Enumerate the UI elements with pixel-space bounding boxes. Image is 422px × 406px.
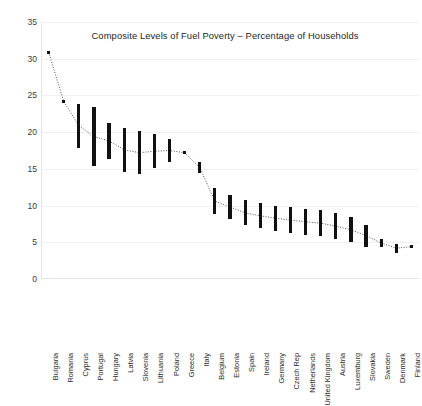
- y-tick-label: 20: [5, 128, 37, 136]
- x-tick-label: Czech Rep: [293, 353, 300, 390]
- x-tick-label: Hungary: [112, 353, 119, 381]
- x-tick-label: Denmark: [399, 353, 406, 383]
- x-tick-label: Lithuania: [157, 353, 164, 383]
- midpoint-marker: [304, 220, 307, 223]
- x-tick-label: Portugal: [97, 353, 104, 381]
- midpoint-marker: [153, 150, 156, 153]
- midpoint-marker: [259, 215, 262, 218]
- x-tick-label: Cyprus: [82, 353, 89, 376]
- midpoint-marker: [380, 242, 383, 245]
- y-tick-label: 5: [5, 238, 37, 246]
- x-tick-label: Bulgaria: [52, 353, 59, 380]
- midpoint-marker: [183, 151, 186, 154]
- x-tick-label: Netherlands: [309, 353, 316, 393]
- x-tick-label: Belgium: [218, 353, 225, 380]
- x-tick-label: Austria: [339, 353, 346, 376]
- midpoint-marker: [335, 225, 338, 228]
- y-tick-label: 15: [5, 165, 37, 173]
- x-tick-label: Luxemburg: [354, 353, 361, 390]
- midpoint-marker: [350, 229, 353, 232]
- x-tick-label: Spain: [248, 353, 255, 372]
- midpoint-marker: [123, 148, 126, 151]
- plot-area: [41, 22, 419, 279]
- x-tick-label: Estonia: [233, 353, 240, 378]
- x-tick-label: Sweden: [384, 353, 391, 380]
- midpoint-marker: [410, 245, 413, 248]
- midpoint-marker: [229, 206, 232, 209]
- y-tick-label: 25: [5, 91, 37, 99]
- midpoint-dotted-line: [41, 22, 419, 279]
- midpoint-marker: [108, 140, 111, 143]
- midpoint-marker: [214, 200, 217, 203]
- x-tick-label: Slovenia: [142, 353, 149, 381]
- x-tick-label: Italy: [203, 353, 210, 367]
- y-tick-label: 0: [5, 275, 37, 283]
- x-tick-label: Finland: [414, 353, 421, 377]
- midpoint-marker: [319, 222, 322, 225]
- x-tick-label: Germany: [278, 353, 285, 383]
- x-tick-label: Latvia: [127, 353, 134, 373]
- x-tick-label: United Kingdom: [324, 353, 331, 406]
- midpoint-marker: [62, 100, 65, 103]
- y-tick-label: 35: [5, 18, 37, 26]
- y-tick-label: 10: [5, 202, 37, 210]
- midpoint-marker: [47, 51, 50, 54]
- midpoint-marker: [138, 151, 141, 154]
- midpoint-marker: [365, 234, 368, 237]
- x-axis-labels: BulgariaRomaniaCyprusPortugalHungaryLatv…: [41, 281, 419, 355]
- x-tick-label: Romania: [67, 353, 74, 383]
- midpoint-marker: [93, 135, 96, 138]
- chart-title: Composite Levels of Fuel Poverty – Perce…: [60, 30, 390, 41]
- y-axis-ticks: 05101520253035: [0, 22, 37, 280]
- x-tick-label: Poland: [173, 353, 180, 376]
- midpoint-marker: [78, 124, 81, 127]
- midpoint-marker: [168, 149, 171, 152]
- x-tick-label: Greece: [188, 353, 195, 377]
- midpoint-marker: [274, 217, 277, 220]
- x-tick-label: Ireland: [263, 353, 270, 376]
- y-tick-label: 30: [5, 55, 37, 63]
- midpoint-marker: [289, 219, 292, 222]
- midpoint-marker: [395, 247, 398, 250]
- x-tick-label: Slovakia: [369, 353, 376, 381]
- midpoint-marker: [198, 166, 201, 169]
- midpoint-marker: [244, 212, 247, 215]
